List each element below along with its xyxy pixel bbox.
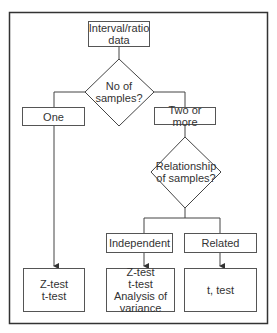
start-line1: Interval/ratio xyxy=(89,22,150,34)
decision1-label: No of samples? xyxy=(89,78,149,106)
result-independent-line1: Z-test xyxy=(126,266,154,278)
start-line2: data xyxy=(108,34,129,46)
result-independent-node: Z-test t-test Analysis of variance xyxy=(106,268,175,312)
decision2-line2: of samples? xyxy=(156,172,215,184)
start-node: Interval/ratio data xyxy=(88,21,150,47)
decision1-line1: No of xyxy=(106,80,132,92)
result-one-line2: t-test xyxy=(42,290,66,302)
decision2-label: Relationship of samples? xyxy=(153,159,219,185)
independent-node: Independent xyxy=(106,233,173,253)
result-independent-line4: variance xyxy=(120,302,162,314)
one-label: One xyxy=(43,111,64,123)
result-independent-line3: Analysis of xyxy=(114,290,167,302)
result-related-label: t, test xyxy=(207,284,234,296)
independent-label: Independent xyxy=(109,237,170,249)
related-node: Related xyxy=(184,233,257,253)
decision2-line1: Relationship xyxy=(156,160,217,172)
result-one-node: Z-test t-test xyxy=(23,268,85,312)
one-node: One xyxy=(22,107,85,126)
two-or-more-node: Two or more xyxy=(154,107,216,125)
related-label: Related xyxy=(202,237,240,249)
result-independent-line2: t-test xyxy=(128,278,152,290)
two-or-more-label: Two or more xyxy=(155,104,215,128)
decision1-line2: samples? xyxy=(95,92,142,104)
result-related-node: t, test xyxy=(184,268,257,312)
result-one-line1: Z-test xyxy=(40,278,68,290)
